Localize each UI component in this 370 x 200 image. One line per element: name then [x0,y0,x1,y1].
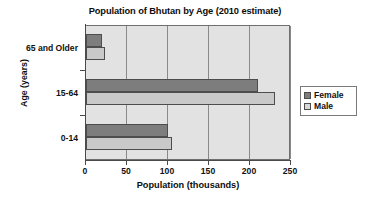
x-axis-line [85,160,291,161]
y-axis-title: Age (years) [19,38,29,128]
bar-female-15-64 [86,79,258,92]
x-axis-tick-label: 250 [275,166,305,176]
bar-male-0-14 [86,137,172,150]
gridline [290,26,291,159]
x-axis-title: Population (thousands) [60,180,316,190]
x-axis-tick [85,161,86,165]
y-axis-line [85,24,86,161]
x-axis-tick-label: 200 [234,166,264,176]
chart-legend: Female Male [300,86,357,116]
y-axis-tick-label: 0-14 [61,133,78,143]
y-axis-tick [80,70,85,71]
legend-label-female: Female [314,90,344,101]
x-axis-tick [126,161,127,165]
legend-label-male: Male [314,101,333,112]
y-axis-tick-label: 65 and Older [26,43,78,53]
y-axis-tick-label: 15-64 [56,88,78,98]
bar-female-0-14 [86,124,168,137]
x-axis-tick [249,161,250,165]
x-axis-tick-label: 100 [152,166,182,176]
legend-item-female[interactable]: Female [304,90,353,101]
x-axis-tick-label: 150 [193,166,223,176]
legend-item-male[interactable]: Male [304,101,353,112]
x-axis-tick [208,161,209,165]
x-axis-tick [290,161,291,165]
male-swatch-icon [304,103,311,110]
bar-male-15-64 [86,92,275,105]
x-axis-tick-label: 0 [70,166,100,176]
x-axis-tick-label: 50 [111,166,141,176]
population-bar-chart: Population of Bhutan by Age (2010 estima… [0,0,370,200]
female-swatch-icon [304,92,311,99]
x-axis-tick [167,161,168,165]
chart-title: Population of Bhutan by Age (2010 estima… [0,6,370,16]
y-axis-tick [80,115,85,116]
bars-layer [86,26,289,159]
bar-female-65-and-older [86,34,102,47]
plot-area [85,25,290,160]
bar-male-65-and-older [86,47,105,60]
